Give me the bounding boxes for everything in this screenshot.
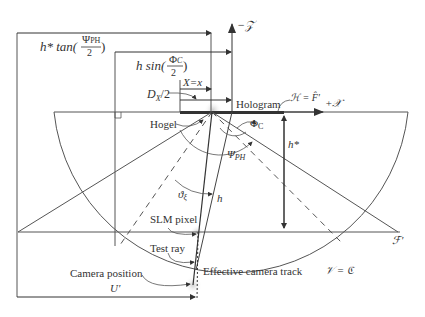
- slm-pixel-label: SLM pixel: [150, 213, 197, 225]
- hologram-equation: ℋ = F̂′: [290, 91, 321, 103]
- h-label: h: [217, 192, 223, 204]
- phi-denominator: 2: [171, 67, 176, 78]
- h-star-label: h*: [288, 138, 300, 150]
- test-ray: [193, 112, 212, 285]
- test-ray-label: Test ray: [150, 242, 185, 254]
- effective-camera-track-label: Effective camera track: [203, 265, 303, 277]
- diagram-canvas: −𝒵 +𝒳 h* tan( ΨPH 2 ) h sin( ΦC 2 ) X=x …: [0, 0, 425, 317]
- phi-c-numerator: ΦC: [169, 53, 183, 65]
- h-ray: [196, 112, 232, 270]
- dashed-right: [212, 112, 342, 243]
- camera-pointer: [142, 275, 190, 286]
- hogel-label: Hogel: [150, 118, 177, 130]
- psi-denominator: 2: [87, 47, 92, 58]
- camera-track-arc: [54, 112, 408, 273]
- theta-xi-label: ϑξ: [178, 188, 187, 202]
- hologram-label: Hologram: [236, 98, 281, 110]
- h-sin-close: ): [183, 58, 187, 73]
- v-eq-c-label: 𝒱 = ℭ: [325, 264, 356, 276]
- hogel-pointer: [176, 120, 203, 126]
- camera-position-label: Camera position: [70, 267, 143, 279]
- pos-x-label: +𝒳: [325, 97, 345, 109]
- psi-angle-label: ΨPH: [227, 148, 247, 162]
- x-eq-label: X=x: [182, 76, 202, 88]
- phi-c-angle-label: ΦC: [250, 117, 263, 131]
- h-tan-text: h* tan(: [40, 39, 78, 54]
- right-angle-marker: [115, 112, 121, 118]
- dx-pointer: [168, 93, 196, 99]
- h-tan-close: ): [101, 39, 105, 54]
- dashed-left: [120, 112, 212, 245]
- dx-half-label: DX/2: [146, 87, 170, 103]
- neg-z-label: −𝒵: [237, 18, 257, 32]
- u-prime-label: U′: [110, 282, 121, 294]
- test-ray-pointer: [168, 253, 194, 263]
- f-prime-label: ℱ′: [392, 234, 404, 246]
- cone-right-edge: [212, 112, 398, 232]
- psi-ph-numerator: ΨPH: [82, 33, 101, 45]
- h-sin-text: h sin(: [136, 58, 166, 73]
